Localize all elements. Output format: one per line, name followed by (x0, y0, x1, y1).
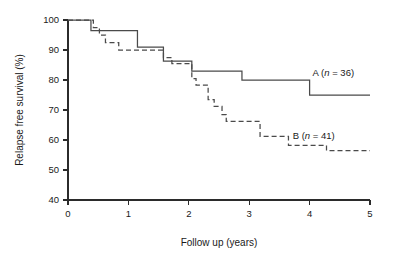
label-prefix: B ( (293, 130, 306, 141)
x-axis: 012345 (65, 200, 372, 219)
y-axis-tick-label: 70 (48, 104, 59, 115)
y-axis-tick-label: 80 (48, 74, 59, 85)
x-axis-title: Follow up (years) (181, 237, 258, 248)
y-axis-tick-label: 40 (48, 194, 59, 205)
x-axis-tick-label: 3 (247, 208, 252, 219)
x-axis-tick-label: 2 (186, 208, 191, 219)
label-suffix: = 41) (310, 130, 335, 141)
x-axis-tick-label: 1 (126, 208, 131, 219)
y-axis-tick-label: 60 (48, 134, 59, 145)
y-axis: 405060708090100 (43, 14, 68, 205)
x-axis-tick-label: 4 (307, 208, 312, 219)
label-suffix: = 36) (330, 67, 355, 78)
y-axis-tick-label: 100 (43, 14, 59, 25)
series-label-b: B (n = 41) (293, 130, 335, 141)
series-label-a: A (n = 36) (313, 67, 354, 78)
series-line-a (68, 20, 370, 95)
kaplan-meier-figure: 405060708090100 012345 A (n = 36)B (n = … (0, 0, 393, 253)
x-axis-tick-label: 0 (65, 208, 70, 219)
x-axis-tick-label: 5 (367, 208, 372, 219)
series-annotations: A (n = 36)B (n = 41) (293, 67, 354, 141)
y-axis-title: Relapse free survival (%) (14, 54, 25, 166)
y-axis-tick-label: 50 (48, 164, 59, 175)
y-axis-tick-label: 90 (48, 44, 59, 55)
relapse-free-survival-chart: 405060708090100 012345 A (n = 36)B (n = … (0, 0, 393, 253)
label-prefix: A ( (313, 67, 325, 78)
